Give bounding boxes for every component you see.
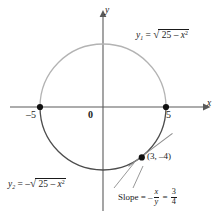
tick-label-right: 5 xyxy=(166,110,171,120)
tick-label-left: –5 xyxy=(26,110,36,120)
y1-radical-icon: √ xyxy=(153,28,159,40)
slope-value-numerator: 3 xyxy=(171,188,177,197)
slope-word: Slope xyxy=(118,192,139,202)
y2-radicand-exponent: 2 xyxy=(62,179,65,185)
y2-radicand-constant: 25 xyxy=(39,179,49,189)
slope-equals-second: = xyxy=(163,192,168,202)
point-3-neg4 xyxy=(139,154,145,160)
point-coordinate-label: (3, –4) xyxy=(147,152,171,161)
slope-fraction-xy: x y xyxy=(154,188,160,206)
point-left-intercept xyxy=(37,104,43,110)
slope-value-denominator: 4 xyxy=(171,197,177,207)
slope-equals-first: = xyxy=(141,192,146,202)
tangent-line xyxy=(129,133,173,166)
origin-label: 0 xyxy=(88,110,93,120)
y2-radicand-minus: – xyxy=(50,179,55,189)
circle-tangent-figure: –5 0 5 x y y1 = √ 25 – x2 y2 = –√ 25 – x… xyxy=(0,0,219,219)
x-axis-label: x xyxy=(207,99,211,109)
y1-equals: = xyxy=(146,30,151,40)
equation-label-y1: y1 = √ 25 – x2 xyxy=(136,29,189,42)
slope-fraction-value: 3 4 xyxy=(171,188,177,206)
y1-radicand-constant: 25 xyxy=(162,30,172,40)
y1-subscript: 1 xyxy=(140,35,143,41)
y1-radicand-minus: – xyxy=(174,30,179,40)
slope-fraction-numerator-x: x xyxy=(154,188,160,197)
y1-radicand-exponent: 2 xyxy=(185,30,188,36)
slope-fraction-denominator-y: y xyxy=(154,197,160,207)
y-axis-label: y xyxy=(105,6,109,16)
slope-negative-sign: – xyxy=(148,192,153,202)
slope-annotation: Slope = – x y = 3 4 xyxy=(118,188,178,206)
slope-leader-line-right xyxy=(133,166,143,188)
y2-equals: = xyxy=(18,179,23,189)
y2-subscript: 2 xyxy=(12,184,15,190)
slope-leader-lines xyxy=(114,163,143,188)
equation-label-y2: y2 = –√ 25 – x2 xyxy=(8,178,66,191)
y2-radical-icon: √ xyxy=(30,177,36,189)
